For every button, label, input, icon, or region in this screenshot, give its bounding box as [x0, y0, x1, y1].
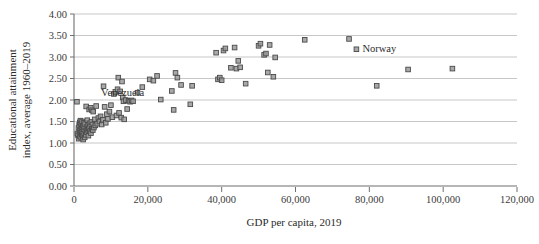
x-tick-marks-group — [74, 187, 517, 192]
y-tick-label: 1.00 — [49, 138, 67, 149]
y-tick-label: 2.50 — [49, 73, 67, 84]
data-point-marker — [406, 67, 411, 72]
data-point-marker — [94, 104, 99, 109]
data-point-marker — [243, 81, 248, 86]
data-point-marker — [229, 65, 234, 70]
data-point-marker — [91, 109, 96, 114]
data-point-marker — [117, 111, 122, 116]
data-point-marker — [171, 108, 176, 113]
data-point-marker — [223, 46, 228, 51]
data-point-marker — [267, 43, 272, 48]
data-point-marker — [122, 117, 127, 122]
data-point-marker — [266, 70, 271, 75]
data-point-marker — [158, 97, 163, 102]
data-point-marker — [106, 117, 111, 122]
point-annotation-label: Norway — [362, 43, 397, 54]
data-point-marker — [347, 37, 352, 42]
data-point-marker — [75, 99, 80, 104]
x-axis-title: GDP per capita, 2019 — [247, 216, 342, 228]
chart-canvas: 0.000.501.001.502.002.503.003.504.00 020… — [0, 0, 539, 244]
data-point-marker — [354, 47, 359, 52]
data-point-marker — [175, 75, 180, 80]
scatter-chart-figure: 0.000.501.001.502.002.503.003.504.00 020… — [0, 0, 539, 244]
data-point-marker — [214, 50, 219, 55]
data-point-marker — [238, 65, 243, 70]
y-tick-label: 3.50 — [49, 30, 67, 41]
data-point-marker — [120, 79, 125, 84]
x-tick-label: 40,000 — [207, 194, 236, 205]
data-point-marker — [188, 102, 193, 107]
data-point-marker — [273, 55, 278, 60]
data-point-marker — [179, 83, 184, 88]
point-annotation-label: Venezuela — [101, 87, 144, 98]
data-point-marker — [271, 74, 276, 79]
x-tick-label: 0 — [71, 194, 76, 205]
data-point-marker — [109, 103, 114, 108]
data-point-marker — [173, 71, 178, 76]
data-point-marker — [450, 66, 455, 71]
y-tick-labels-group: 0.000.501.001.502.002.503.003.504.00 — [49, 9, 67, 192]
data-point-marker — [151, 78, 156, 83]
data-point-marker — [258, 41, 263, 46]
y-axis-title-line-1: Educational attainment — [6, 49, 18, 151]
data-point-marker — [190, 84, 195, 89]
y-axis-title-line-2: index, average 1960–2019 — [20, 41, 32, 158]
x-tick-label: 60,000 — [281, 194, 310, 205]
y-tick-label: 1.50 — [49, 116, 67, 127]
y-tick-label: 4.00 — [49, 9, 67, 20]
data-point-marker — [155, 74, 160, 79]
y-tick-label: 3.00 — [49, 52, 67, 63]
data-point-marker — [232, 45, 237, 50]
data-point-marker — [302, 38, 307, 43]
data-point-marker — [107, 109, 112, 114]
data-point-marker — [264, 51, 269, 56]
x-tick-label: 120,000 — [500, 194, 534, 205]
x-tick-label: 80,000 — [355, 194, 384, 205]
x-tick-label: 20,000 — [133, 194, 162, 205]
data-point-marker — [219, 78, 224, 83]
y-tick-label: 2.00 — [49, 95, 67, 106]
point-annotations-group: VenezuelaNorway — [101, 43, 397, 98]
data-point-marker — [131, 99, 136, 104]
data-point-marker — [125, 107, 130, 112]
y-tick-label: 0.00 — [49, 181, 67, 192]
x-tick-label: 100,000 — [426, 194, 460, 205]
y-tick-marks-group — [70, 14, 74, 186]
x-tick-labels-group: 020,00040,00060,00080,000100,000120,000 — [71, 194, 534, 205]
y-tick-label: 0.50 — [49, 159, 67, 170]
data-point-marker — [102, 105, 107, 110]
data-point-marker — [236, 59, 241, 64]
data-point-marker — [374, 84, 379, 89]
data-point-marker — [170, 89, 175, 94]
